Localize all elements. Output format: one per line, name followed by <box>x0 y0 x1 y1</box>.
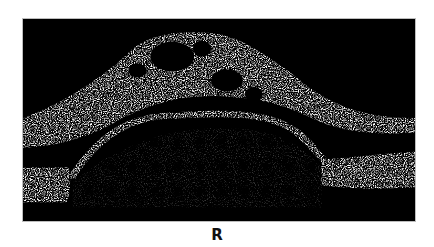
oct-scan-graphic <box>23 19 415 221</box>
choroid-right <box>321 152 415 189</box>
oct-scan-image <box>22 18 416 222</box>
sub-rpe-speckle <box>73 128 322 207</box>
panel-label: R <box>0 226 434 244</box>
choroid-left <box>23 168 70 203</box>
